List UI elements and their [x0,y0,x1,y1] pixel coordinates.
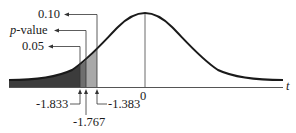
critical-value-neg-1.383: -1.383 [108,98,140,111]
arrow-neg-1.833 [70,89,82,104]
tail-area-0.05 [9,65,80,87]
critical-value-neg-1.767: -1.767 [73,116,105,129]
arrow-neg-1.383 [95,89,107,104]
axis-zero-label: 0 [140,90,146,103]
label-value-text: -value [16,23,47,37]
label-p-value: p-value [10,24,47,37]
axis-variable-label: t [286,80,289,93]
critical-value-neg-1.833: -1.833 [36,98,68,111]
label-0.10: 0.10 [38,8,60,21]
label-0.05: 0.05 [22,40,44,53]
arrow-neg-1.767 [84,89,88,115]
